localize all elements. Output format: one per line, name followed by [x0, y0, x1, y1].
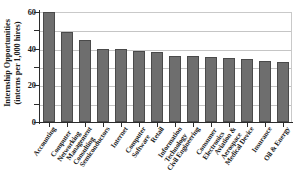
bar-series — [40, 12, 292, 122]
x-axis-line — [39, 122, 293, 123]
bar — [97, 49, 108, 122]
bar — [79, 40, 90, 123]
bar — [187, 56, 198, 122]
y-axis-tick-mark — [34, 67, 39, 68]
y-axis-tick-mark — [34, 12, 39, 13]
bar — [43, 12, 54, 122]
y-axis-tick-mark — [34, 30, 39, 31]
bar — [133, 51, 144, 122]
bar — [259, 61, 270, 122]
y-axis-title-line1: Internship Opportunities — [3, 19, 13, 107]
bar — [151, 52, 162, 122]
bar — [115, 49, 126, 122]
bar — [223, 58, 234, 122]
y-axis-tick-mark — [34, 85, 39, 86]
bar — [61, 32, 72, 122]
bar — [205, 57, 216, 122]
x-axis-category-label: Retail — [150, 126, 166, 145]
bar-chart: Internship Opportunities (interns per 1,… — [0, 0, 300, 186]
x-axis-category-labels: AccountingComputerNetworkingManagementCo… — [40, 126, 292, 186]
bar — [277, 62, 288, 123]
y-axis-tick-mark — [34, 49, 39, 50]
bar — [241, 59, 252, 122]
y-axis-tick-mark — [34, 104, 39, 105]
bar — [169, 56, 180, 122]
y-axis-tick-labels: 0204060 — [20, 0, 36, 126]
y-axis-tick-mark — [34, 122, 39, 123]
